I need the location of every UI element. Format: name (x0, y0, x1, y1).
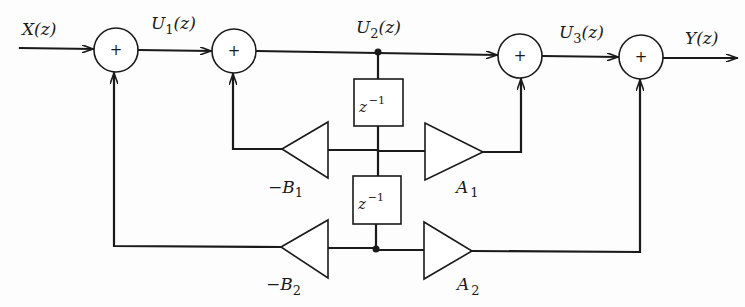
delay-block-2: z−1 (353, 176, 401, 224)
block-diagram: + + + + z−1 z−1 −B1 A1 −B2 A2 (0, 0, 745, 307)
signal-label-x: X(z) (20, 19, 56, 39)
adder-2: + (212, 29, 256, 73)
a2-feedforward-wire (472, 80, 640, 252)
junction-dot-node2 (373, 246, 380, 253)
u3-wire (543, 56, 618, 57)
input-wire (20, 48, 93, 49)
signal-label-u2: U2(z) (356, 17, 401, 41)
gain-a2-triangle (424, 222, 472, 279)
signal-label-y: Y(z) (685, 28, 718, 48)
u1-wire (139, 50, 211, 51)
adder-3-plus: + (514, 47, 527, 65)
signal-label-u3: U3(z) (559, 22, 604, 46)
gain-neg-b1-triangle (282, 122, 328, 178)
gain-a2-label: A2 (455, 274, 480, 298)
gain-a1-triangle (425, 123, 483, 180)
a1-feedforward-wire (483, 79, 521, 152)
gain-a1-label: A1 (454, 177, 479, 200)
gain-neg-b1-label: −B1 (268, 177, 303, 200)
delay-block-1: z−1 (354, 79, 403, 126)
gain-neg-b2-triangle (281, 220, 328, 278)
adder-3: + (498, 34, 542, 78)
diagram-svg: + + + + z−1 z−1 −B1 A1 −B2 A2 (0, 0, 745, 307)
neg-b1-feedback-wire (233, 74, 282, 149)
adder-4-plus: + (635, 48, 648, 66)
adder-1: + (94, 28, 138, 72)
adder-2-plus: + (228, 42, 241, 60)
junction-dot-u2 (375, 49, 382, 56)
neg-b2-feedback-wire (114, 73, 281, 247)
adder-1-plus: + (110, 41, 123, 59)
adder-4: + (619, 35, 663, 79)
signal-label-u1: U1(z) (151, 13, 196, 37)
gain-neg-b2-label: −B2 (266, 274, 301, 298)
